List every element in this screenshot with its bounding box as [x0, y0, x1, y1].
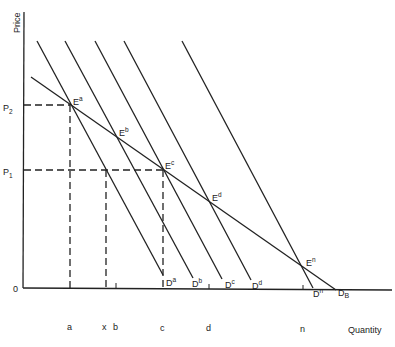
quantity-labels: a x b c d n [67, 322, 305, 334]
equilibrium-b: Eb [119, 126, 129, 138]
origin-label: 0 [13, 284, 18, 294]
y-axis [23, 12, 24, 288]
equilibrium-d: Ed [212, 191, 222, 203]
qty-label-c: c [160, 323, 165, 333]
equilibrium-n: En [306, 256, 316, 268]
qty-label-d: d [206, 323, 211, 333]
equilibrium-a: Ea [73, 95, 83, 107]
demand-diagram: Price Quantity 0 P2 P1 a x b c d n Ea E [0, 0, 395, 347]
equilibrium-c: Ec [165, 159, 175, 171]
price-label-p1: P1 [3, 167, 13, 179]
qty-label-x: x [102, 322, 107, 332]
market-demand-curve [31, 77, 336, 290]
y-axis-label: Price [12, 12, 22, 33]
demand-label-b: Db [192, 277, 203, 289]
demand-curve-d [124, 41, 251, 280]
x-axis-label: Quantity [348, 325, 382, 335]
qty-label-a: a [67, 322, 72, 332]
equilibrium-labels: Ea Eb Ec Ed En [73, 95, 316, 268]
demand-label-c: Dc [225, 278, 236, 290]
demand-curves [31, 41, 336, 290]
dashed-guides [24, 105, 163, 288]
qty-label-n: n [300, 324, 305, 334]
x-axis [23, 288, 392, 290]
demand-curve-c [95, 41, 222, 279]
price-label-p2: P2 [3, 103, 13, 115]
demand-curve-a [37, 41, 163, 275]
demand-label-n: Dn [313, 287, 324, 299]
demand-label-a: Da [166, 276, 177, 288]
demand-curve-n [182, 41, 313, 288]
qty-label-b: b [113, 322, 118, 332]
